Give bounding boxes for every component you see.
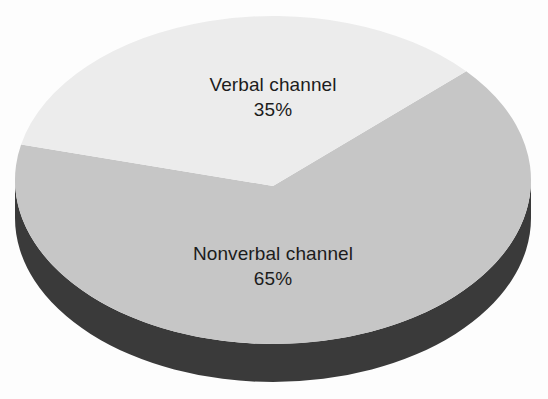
pie-label-verbal-channel: Verbal channel 35% <box>0 72 547 122</box>
pie-label-nonverbal-channel-value: 65% <box>0 266 547 291</box>
pie-label-verbal-channel-name: Verbal channel <box>0 72 547 97</box>
pie-label-nonverbal-channel: Nonverbal channel 65% <box>0 241 547 291</box>
pie-label-verbal-channel-value: 35% <box>0 97 547 122</box>
pie-chart-figure: Verbal channel 35% Nonverbal channel 65% <box>0 0 548 399</box>
pie-chart-graphic <box>0 0 548 399</box>
pie-label-nonverbal-channel-name: Nonverbal channel <box>0 241 547 266</box>
